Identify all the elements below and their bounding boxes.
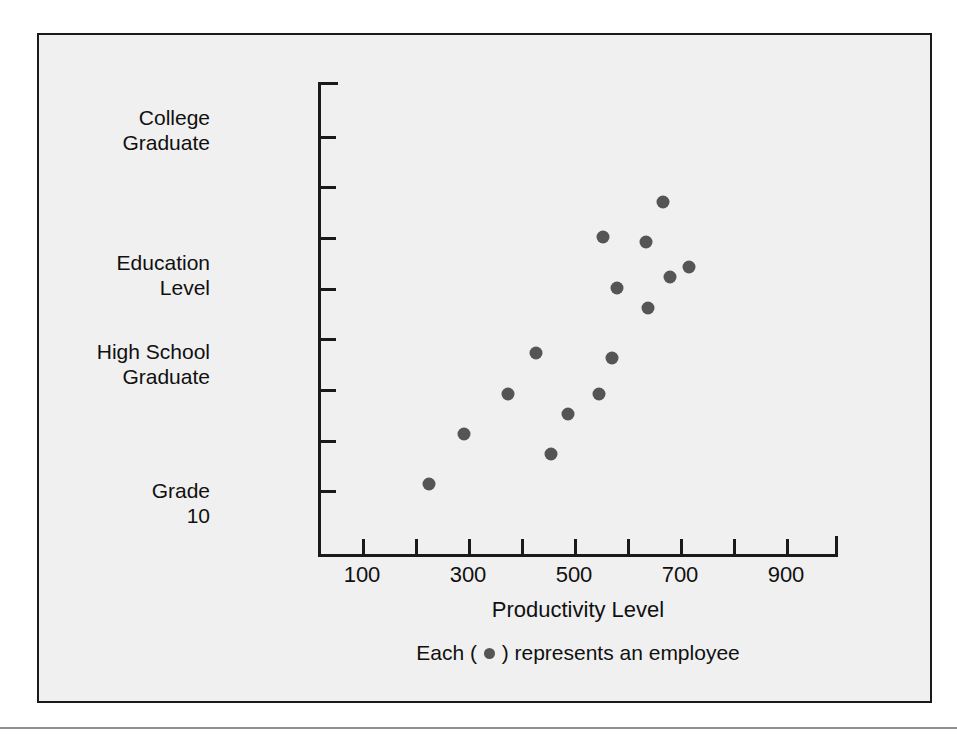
data-point: [640, 236, 653, 249]
data-point: [606, 352, 619, 365]
x-axis-tick-900: [786, 539, 789, 557]
x-axis-tick-100: [362, 539, 365, 557]
data-point: [530, 347, 543, 360]
data-point: [502, 387, 515, 400]
data-point: [657, 195, 670, 208]
data-point: [610, 281, 623, 294]
x-axis-tick-700: [680, 539, 683, 557]
y-axis-tick: [318, 440, 336, 443]
x-axis-tick-600: [627, 539, 630, 557]
x-axis-line: [318, 554, 838, 557]
y-axis-tick: [318, 338, 336, 341]
y-axis-tick: [318, 237, 336, 240]
x-axis-tick-500: [574, 539, 577, 557]
y-axis-tick: [318, 136, 336, 139]
x-axis-tick-800: [733, 539, 736, 557]
y-axis-label-high-school-graduate: High School Graduate: [0, 339, 210, 389]
y-axis-label-education-level: Education Level: [0, 250, 210, 300]
x-axis-label-500: 500: [544, 562, 604, 588]
y-axis-tick: [318, 288, 336, 291]
data-point: [642, 301, 655, 314]
data-point: [545, 448, 558, 461]
x-axis-tick-200: [415, 539, 418, 557]
y-axis-tick: [318, 186, 336, 189]
y-axis-tick: [318, 389, 336, 392]
data-point: [663, 271, 676, 284]
caption-prefix: Each (: [416, 641, 477, 664]
x-axis-end-cap: [835, 536, 838, 557]
data-point: [683, 261, 696, 274]
x-axis-label-700: 700: [650, 562, 710, 588]
y-axis-line: [318, 82, 321, 557]
y-axis-tick-top-cap: [318, 82, 338, 85]
x-axis-label-300: 300: [438, 562, 498, 588]
chart-caption: Each ( ) represents an employee: [318, 640, 838, 665]
caption-suffix: ) represents an employee: [502, 641, 740, 664]
data-point: [597, 231, 610, 244]
x-axis-tick-400: [521, 539, 524, 557]
data-point: [593, 387, 606, 400]
y-axis-tick: [318, 490, 336, 493]
x-axis-label-100: 100: [332, 562, 392, 588]
x-axis-label-900: 900: [756, 562, 816, 588]
x-axis-tick-300: [468, 539, 471, 557]
data-point: [423, 478, 436, 491]
y-axis-label-grade-10: Grade 10: [0, 478, 210, 528]
data-point: [562, 407, 575, 420]
employee-dot-icon: [484, 648, 495, 659]
y-axis-label-college-graduate: College Graduate: [0, 105, 210, 155]
x-axis-title: Productivity Level: [318, 597, 838, 623]
page-divider: [0, 727, 957, 729]
data-point: [458, 427, 471, 440]
